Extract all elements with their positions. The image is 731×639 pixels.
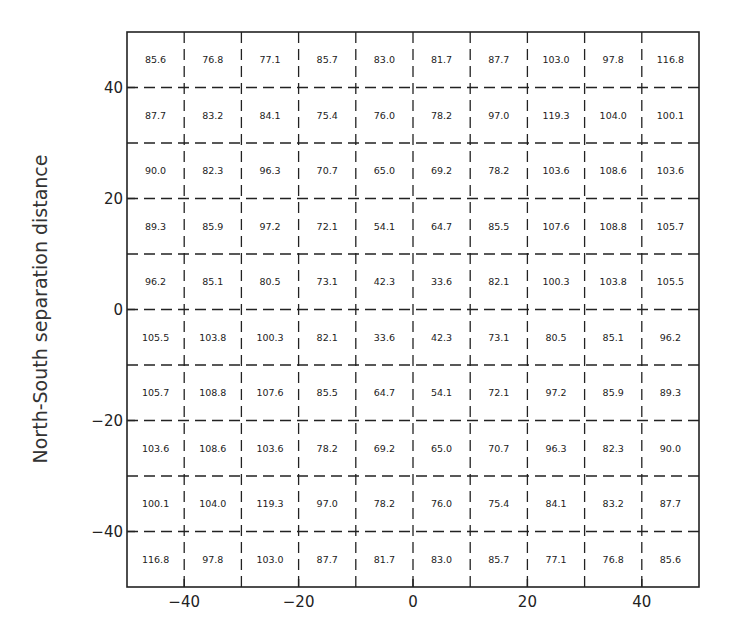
cell-value: 105.5 <box>657 276 684 287</box>
y-axis-label: North-South separation distance <box>29 155 51 464</box>
cell-value: 96.2 <box>660 332 681 343</box>
x-tick-label: 0 <box>408 593 418 611</box>
cell-value: 89.3 <box>145 221 166 232</box>
cell-value: 65.0 <box>374 165 395 176</box>
cell-value: 83.2 <box>603 498 624 509</box>
cell-value: 96.3 <box>545 443 566 454</box>
cell-value: 105.7 <box>657 221 684 232</box>
cell-value: 108.6 <box>199 443 226 454</box>
cell-value: 75.4 <box>317 110 338 121</box>
cell-value: 85.9 <box>603 387 624 398</box>
cell-value: 103.6 <box>256 443 283 454</box>
cell-value: 78.2 <box>317 443 338 454</box>
cell-value: 85.9 <box>202 221 223 232</box>
cell-value: 87.7 <box>660 498 681 509</box>
variogram-table-chart: 85.676.877.185.783.081.787.7103.097.8116… <box>0 0 731 639</box>
cell-value: 85.6 <box>145 54 166 65</box>
cell-value: 105.7 <box>142 387 169 398</box>
cell-value: 73.1 <box>317 276 338 287</box>
cell-value: 108.6 <box>600 165 627 176</box>
cell-value: 81.7 <box>431 54 452 65</box>
cell-value: 81.7 <box>374 554 395 565</box>
y-tick-label: 0 <box>113 301 123 319</box>
cell-value: 84.1 <box>259 110 280 121</box>
cell-value: 97.8 <box>603 54 624 65</box>
cell-value: 116.8 <box>657 54 684 65</box>
cell-value: 85.1 <box>202 276 223 287</box>
cell-value: 76.8 <box>603 554 624 565</box>
y-tick-label: 40 <box>104 79 123 97</box>
cell-value: 96.2 <box>145 276 166 287</box>
cell-value: 103.0 <box>256 554 283 565</box>
cell-value: 87.7 <box>145 110 166 121</box>
cell-value: 69.2 <box>431 165 452 176</box>
cell-value: 104.0 <box>600 110 627 121</box>
cell-value: 97.2 <box>259 221 280 232</box>
cell-value: 104.0 <box>199 498 226 509</box>
cell-value: 97.0 <box>317 498 338 509</box>
cell-value: 103.6 <box>142 443 169 454</box>
cell-value: 33.6 <box>431 276 452 287</box>
cell-value: 89.3 <box>660 387 681 398</box>
cell-value: 33.6 <box>374 332 395 343</box>
cell-value: 54.1 <box>431 387 452 398</box>
cell-value: 85.1 <box>603 332 624 343</box>
cell-value: 64.7 <box>374 387 395 398</box>
cell-value: 105.5 <box>142 332 169 343</box>
cell-value: 72.1 <box>488 387 509 398</box>
cell-value: 85.6 <box>660 554 681 565</box>
cell-value: 85.5 <box>488 221 509 232</box>
cell-value: 77.1 <box>259 54 280 65</box>
x-tick-label: −40 <box>168 593 200 611</box>
cell-value: 82.1 <box>488 276 509 287</box>
cell-value: 82.3 <box>202 165 223 176</box>
cell-value: 64.7 <box>431 221 452 232</box>
cell-value: 42.3 <box>374 276 395 287</box>
cell-value: 103.0 <box>542 54 569 65</box>
y-tick-label: −40 <box>91 523 123 541</box>
cell-value: 100.3 <box>256 332 283 343</box>
cell-value: 107.6 <box>542 221 569 232</box>
cell-value: 76.8 <box>202 54 223 65</box>
x-tick-label: −20 <box>283 593 315 611</box>
cell-value: 80.5 <box>545 332 566 343</box>
cell-value: 76.0 <box>431 498 452 509</box>
cell-value: 96.3 <box>259 165 280 176</box>
cell-value: 108.8 <box>600 221 627 232</box>
cell-value: 103.6 <box>657 165 684 176</box>
cell-value: 75.4 <box>488 498 509 509</box>
x-tick-label: 40 <box>632 593 651 611</box>
cell-value: 100.3 <box>542 276 569 287</box>
cell-value: 82.1 <box>317 332 338 343</box>
cell-value: 78.2 <box>431 110 452 121</box>
cell-value: 78.2 <box>374 498 395 509</box>
cell-value: 97.0 <box>488 110 509 121</box>
cell-value: 76.0 <box>374 110 395 121</box>
cell-value: 87.7 <box>317 554 338 565</box>
y-tick-label: 20 <box>104 190 123 208</box>
cell-value: 82.3 <box>603 443 624 454</box>
cell-value: 107.6 <box>256 387 283 398</box>
cell-value: 70.7 <box>317 165 338 176</box>
cell-value: 103.8 <box>600 276 627 287</box>
cell-value: 103.8 <box>199 332 226 343</box>
cell-value: 103.6 <box>542 165 569 176</box>
cell-value: 83.0 <box>374 54 395 65</box>
cell-value: 65.0 <box>431 443 452 454</box>
cell-value: 100.1 <box>142 498 169 509</box>
cell-value: 97.8 <box>202 554 223 565</box>
y-tick-label: −20 <box>91 412 123 430</box>
cell-value: 83.0 <box>431 554 452 565</box>
cell-value: 54.1 <box>374 221 395 232</box>
cell-value: 77.1 <box>545 554 566 565</box>
cell-value: 97.2 <box>545 387 566 398</box>
cell-value: 69.2 <box>374 443 395 454</box>
cell-value: 90.0 <box>660 443 681 454</box>
cell-value: 85.5 <box>317 387 338 398</box>
cell-value: 85.7 <box>488 554 509 565</box>
cell-value: 116.8 <box>142 554 169 565</box>
cell-value: 100.1 <box>657 110 684 121</box>
cell-value: 90.0 <box>145 165 166 176</box>
cell-value: 78.2 <box>488 165 509 176</box>
cell-value: 72.1 <box>317 221 338 232</box>
